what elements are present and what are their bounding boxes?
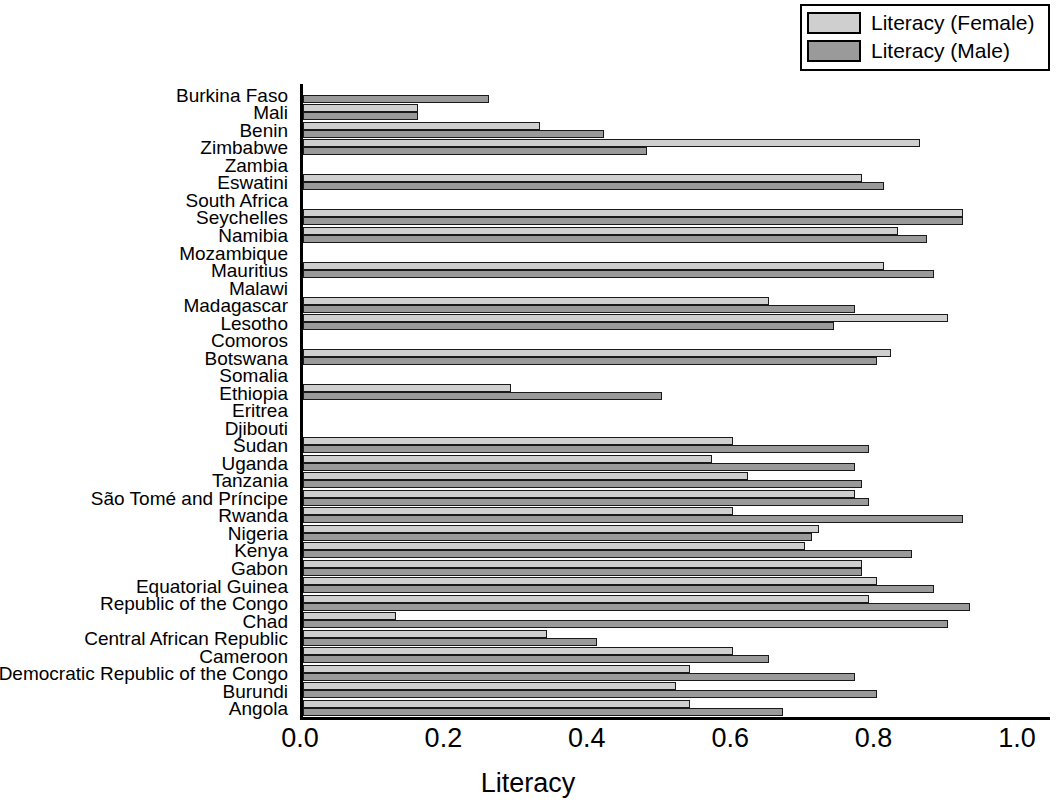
- bar-male: [303, 655, 769, 663]
- bar-female: [303, 542, 805, 550]
- bar-group: [303, 542, 1017, 560]
- bar-male: [303, 550, 912, 558]
- bar-male: [303, 217, 963, 225]
- bar-group: [303, 86, 1017, 104]
- bar-male: [303, 445, 869, 453]
- bar-female: [303, 227, 898, 235]
- bar-male: [303, 392, 662, 400]
- bar-group: [303, 384, 1017, 402]
- bar-group: [303, 507, 1017, 525]
- bar-group: [303, 156, 1017, 174]
- x-axis-tick-label: 1.0: [998, 722, 1036, 754]
- bar-male: [303, 463, 855, 471]
- bar-female: [303, 139, 920, 147]
- bar-group: [303, 489, 1017, 507]
- chart-legend: Literacy (Female) Literacy (Male): [800, 4, 1050, 71]
- bar-male: [303, 182, 884, 190]
- bar-group: [303, 577, 1017, 595]
- x-axis-tick-label: 0.0: [281, 722, 319, 754]
- bar-male: [303, 673, 855, 681]
- bar-male: [303, 603, 970, 611]
- literacy-bar-chart: Literacy (Female) Literacy (Male) Burkin…: [0, 0, 1056, 811]
- bar-female: [303, 122, 540, 130]
- bar-female: [303, 525, 819, 533]
- bar-group: [303, 314, 1017, 332]
- bar-group: [303, 209, 1017, 227]
- bar-group: [303, 594, 1017, 612]
- bar-group: [303, 331, 1017, 349]
- x-axis-title: Literacy: [0, 768, 1056, 799]
- bar-male: [303, 147, 647, 155]
- bar-group: [303, 402, 1017, 420]
- bar-group: [303, 682, 1017, 700]
- bar-group: [303, 524, 1017, 542]
- bar-female: [303, 577, 877, 585]
- bar-group: [303, 629, 1017, 647]
- y-axis-label: Angola: [229, 699, 288, 718]
- bar-female: [303, 437, 733, 445]
- y-axis-category-labels: Burkina FasoMaliBeninZimbabweZambiaEswat…: [0, 86, 294, 717]
- bar-group: [303, 139, 1017, 157]
- bar-group: [303, 279, 1017, 297]
- bar-group: [303, 454, 1017, 472]
- legend-label-female: Literacy (Female): [871, 12, 1034, 34]
- bar-female: [303, 700, 690, 708]
- bar-male: [303, 270, 934, 278]
- bar-female: [303, 262, 884, 270]
- bar-male: [303, 112, 418, 120]
- bar-female: [303, 314, 948, 322]
- x-axis-tick-label: 0.8: [855, 722, 893, 754]
- bar-male: [303, 235, 927, 243]
- x-axis-tick-label: 0.4: [568, 722, 606, 754]
- bar-male: [303, 690, 877, 698]
- legend-swatch-male-icon: [807, 40, 861, 62]
- bar-group: [303, 647, 1017, 665]
- bar-group: [303, 174, 1017, 192]
- bar-female: [303, 595, 869, 603]
- plot-area: [300, 86, 1017, 717]
- bar-group: [303, 349, 1017, 367]
- bar-group: [303, 437, 1017, 455]
- bar-male: [303, 638, 597, 646]
- bar-group: [303, 612, 1017, 630]
- bar-female: [303, 682, 676, 690]
- bar-group: [303, 244, 1017, 262]
- bar-male: [303, 357, 877, 365]
- bar-male: [303, 620, 948, 628]
- bar-group: [303, 366, 1017, 384]
- bar-male: [303, 585, 934, 593]
- bar-female: [303, 560, 862, 568]
- bar-female: [303, 104, 418, 112]
- bar-group: [303, 699, 1017, 717]
- bar-female: [303, 297, 769, 305]
- bar-group: [303, 121, 1017, 139]
- bar-female: [303, 630, 547, 638]
- bar-male: [303, 322, 834, 330]
- bar-female: [303, 472, 748, 480]
- bar-male: [303, 498, 869, 506]
- bar-group: [303, 419, 1017, 437]
- x-axis-line: [300, 717, 1050, 720]
- legend-item-female: Literacy (Female): [807, 9, 1043, 37]
- bar-female: [303, 507, 733, 515]
- bar-female: [303, 665, 690, 673]
- bar-group: [303, 261, 1017, 279]
- x-axis-tick-labels: 0.00.20.40.60.81.0: [0, 722, 1056, 762]
- bar-female: [303, 612, 396, 620]
- bar-male: [303, 480, 862, 488]
- bar-group: [303, 664, 1017, 682]
- bar-group: [303, 104, 1017, 122]
- bar-female: [303, 209, 963, 217]
- bar-male: [303, 95, 489, 103]
- bar-female: [303, 174, 862, 182]
- legend-item-male: Literacy (Male): [807, 37, 1043, 65]
- bar-male: [303, 533, 812, 541]
- bar-group: [303, 191, 1017, 209]
- bar-female: [303, 490, 855, 498]
- bar-male: [303, 708, 783, 716]
- bar-male: [303, 568, 862, 576]
- bar-group: [303, 559, 1017, 577]
- bar-female: [303, 384, 511, 392]
- bar-group: [303, 296, 1017, 314]
- bar-female: [303, 647, 733, 655]
